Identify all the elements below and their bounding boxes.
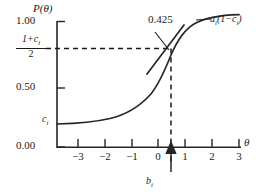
y-tick-label-0-00: 0.00 [16,139,35,151]
asymptote-leader-line [196,19,210,20]
fraction-numerator: 1+ci [8,34,54,48]
slope-annotation: 0.425 [148,13,173,25]
x-tick-label-minus3: −3 [68,150,88,162]
y-tick-label-0-50: 0.50 [16,80,35,92]
ci-subscript: i [46,119,48,126]
asymptote-rest: (1−c [217,13,237,24]
x-tick-label-one: 1 [175,150,195,162]
y-axis-title: P(θ) [33,2,52,14]
x-tick-label-zero: 0 [148,150,168,162]
x-axis-title: θ [244,136,249,148]
x-tick-label-minus1: −1 [122,150,142,162]
item-characteristic-curve-figure [0,0,262,194]
x-tick-label-three: 3 [229,150,249,162]
b-parameter-annotation: bi [146,175,153,188]
x-tick-label-minus2: −2 [95,150,115,162]
slope-leader-line [155,32,169,50]
y-label-half-plus-ci: 1+ci 2 [8,34,54,59]
bi-subscript: i [151,181,153,188]
x-tick-label-two: 2 [202,150,222,162]
fraction-denominator: 2 [8,49,54,59]
numerator-base: 1+c [22,33,38,44]
y-label-lower-asymptote: ci [42,113,48,126]
y-tick-label-1-00: 1.00 [16,14,35,26]
icc-curve [57,15,239,124]
numerator-subscript: i [38,39,40,46]
upper-asymptote-annotation: ai(1−ci) [210,13,242,26]
asymptote-close-paren: ) [238,13,241,24]
